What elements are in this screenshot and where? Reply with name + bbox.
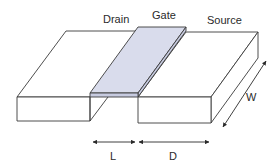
length-label: L <box>110 150 116 162</box>
source-label: Source <box>207 14 242 26</box>
gate-label: Gate <box>152 9 176 21</box>
drain-label: Drain <box>103 13 129 25</box>
gate-front-face <box>90 93 138 97</box>
drain-front-face <box>17 97 90 121</box>
source-front-face <box>138 97 211 123</box>
transistor-diagram: Drain Gate Source W L D <box>0 0 278 162</box>
width-label: W <box>246 91 257 103</box>
channel-inner-edge <box>90 97 108 121</box>
distance-label: D <box>169 150 177 162</box>
